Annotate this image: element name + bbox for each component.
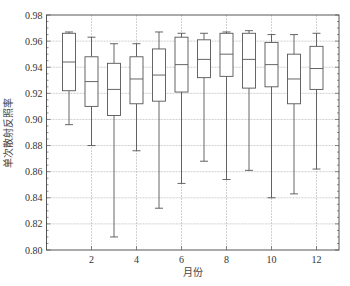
y-tick-label: 0.94 [25,62,43,73]
x-tick-label: 4 [134,254,139,265]
box-month-12 [310,33,323,169]
x-tick-label: 8 [224,254,229,265]
grid-lines [47,15,340,250]
box-month-9 [243,31,256,171]
box-month-3 [108,44,121,237]
iqr-box [220,33,233,76]
plot-frame [47,15,340,250]
y-tick-label: 0.92 [25,88,43,99]
box-month-4 [130,44,143,151]
x-tick-label: 2 [89,254,94,265]
x-tick-label: 12 [312,254,322,265]
y-tick-label: 0.90 [25,114,43,125]
y-tick-label: 0.96 [25,36,43,47]
box-series [63,31,324,237]
box-plot-chart: 0.800.820.840.860.880.900.920.940.960.98… [0,0,350,286]
x-axis-title: 月份 [183,267,203,278]
y-tick-label: 0.84 [25,192,43,203]
y-tick-label: 0.80 [25,245,43,256]
y-tick-label: 0.86 [25,166,43,177]
iqr-box [198,40,211,78]
box-month-5 [153,32,166,208]
box-month-7 [198,33,211,161]
y-tick-label: 0.88 [25,140,43,151]
iqr-box [130,57,143,104]
axes [47,15,340,250]
box-month-1 [63,32,76,125]
box-month-11 [288,35,301,194]
y-tick-label: 0.98 [25,10,43,21]
box-month-2 [85,37,98,145]
box-month-8 [220,32,233,180]
y-tick-label: 0.82 [25,218,43,229]
x-tick-label: 10 [267,254,277,265]
box-month-6 [175,33,188,183]
box-month-10 [265,35,278,198]
iqr-box [310,46,323,89]
x-tick-label: 6 [179,254,184,265]
y-axis-title: 单次散射反照率 [2,98,14,168]
iqr-box [243,33,256,88]
